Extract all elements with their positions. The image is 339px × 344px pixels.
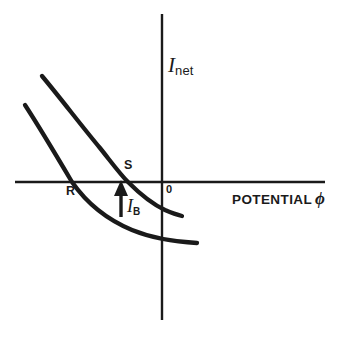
diagram-canvas — [0, 0, 339, 344]
lower-curve — [25, 105, 197, 243]
ib-arrow-label: IB — [127, 197, 140, 217]
point-label-s: S — [124, 159, 132, 172]
potential-current-diagram: Inet POTENTIALϕ IB S R 0 — [0, 0, 339, 344]
x-axis-label: POTENTIALϕ — [232, 190, 325, 207]
ib-arrow — [114, 180, 128, 217]
x-axis-label-text: POTENTIAL — [232, 192, 312, 207]
phi-symbol: ϕ — [312, 189, 325, 208]
origin-label: 0 — [166, 184, 172, 195]
y-axis-label: Inet — [168, 54, 194, 77]
ib-subscript: B — [133, 206, 140, 217]
y-axis-subscript: net — [175, 63, 194, 78]
y-axis-symbol: I — [168, 53, 175, 77]
point-label-r: R — [66, 185, 75, 198]
